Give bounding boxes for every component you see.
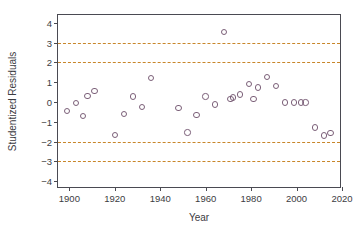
y-axis-tick-label: 1 — [47, 77, 52, 88]
x-axis-title: Year — [57, 212, 341, 223]
data-point — [202, 93, 208, 99]
threshold-line-3 — [58, 43, 340, 44]
x-axis-tick — [251, 187, 252, 191]
data-point — [250, 96, 256, 102]
x-axis-tick — [206, 187, 207, 191]
x-axis-tick-label: 2020 — [331, 193, 352, 204]
y-axis-tick — [54, 181, 58, 182]
x-axis-tick — [342, 187, 343, 191]
x-axis-tick-label: 1960 — [195, 193, 216, 204]
data-point — [121, 111, 127, 117]
x-axis-tick — [160, 187, 161, 191]
plot-canvas: 43210−1−2−3−4190019201940196019802000202… — [58, 15, 340, 187]
data-point — [312, 124, 318, 130]
y-axis-tick — [54, 43, 58, 44]
x-axis-tick-label: 1920 — [104, 193, 125, 204]
y-axis-tick — [54, 122, 58, 123]
x-axis-tick — [115, 187, 116, 191]
y-axis-tick — [54, 142, 58, 143]
y-axis-tick — [54, 102, 58, 103]
data-point — [112, 132, 118, 138]
x-axis-tick — [69, 187, 70, 191]
x-axis-tick-label: 1940 — [150, 193, 171, 204]
data-point — [139, 104, 145, 110]
x-axis-tick-label: 1900 — [59, 193, 80, 204]
y-axis-tick — [54, 62, 58, 63]
data-point — [302, 99, 308, 105]
data-point — [193, 112, 199, 118]
y-axis-tick — [54, 23, 58, 24]
y-axis-tick-label: 2 — [47, 57, 52, 68]
y-axis-tick-label: −4 — [41, 176, 52, 187]
data-point — [91, 88, 97, 94]
plot-frame: 43210−1−2−3−4190019201940196019802000202… — [57, 14, 341, 188]
threshold-line-2 — [58, 62, 340, 63]
y-axis-tick-label: 4 — [47, 17, 52, 28]
x-axis-tick-label: 1980 — [241, 193, 262, 204]
y-axis-title: Studentized Residuals — [6, 14, 20, 188]
x-axis-tick-label: 2000 — [286, 193, 307, 204]
data-point — [221, 29, 227, 35]
data-point — [64, 108, 70, 114]
data-point — [175, 105, 181, 111]
data-point — [291, 99, 297, 105]
data-point — [264, 74, 270, 80]
data-point — [73, 100, 79, 106]
y-axis-title-text: Studentized Residuals — [8, 51, 19, 151]
y-axis-tick-label: 0 — [47, 97, 52, 108]
data-point — [282, 99, 288, 105]
x-axis-tick — [297, 187, 298, 191]
data-point — [237, 91, 243, 97]
data-point — [327, 130, 333, 136]
y-axis-tick-label: 3 — [47, 37, 52, 48]
data-point — [80, 113, 86, 119]
threshold-line-neg2 — [58, 142, 340, 143]
data-point — [230, 94, 236, 100]
y-axis-tick-label: −3 — [41, 156, 52, 167]
data-point — [255, 84, 261, 90]
data-point — [184, 129, 190, 135]
y-axis-tick-label: −2 — [41, 136, 52, 147]
data-point — [148, 75, 154, 81]
data-point — [84, 93, 90, 99]
y-axis-tick-label: −1 — [41, 116, 52, 127]
y-axis-tick — [54, 82, 58, 83]
data-point — [212, 101, 218, 107]
data-point — [321, 132, 327, 138]
y-axis-tick — [54, 161, 58, 162]
scatter-plot-figure: Studentized Residuals 43210−1−2−3−419001… — [0, 0, 364, 236]
threshold-line-neg3 — [58, 161, 340, 162]
data-point — [130, 93, 136, 99]
data-point — [246, 81, 252, 87]
data-point — [273, 83, 279, 89]
